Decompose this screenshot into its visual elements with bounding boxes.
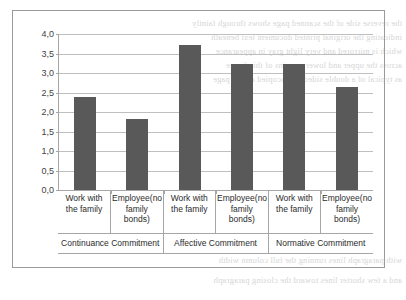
y-axis-tick-label: 2,5 [41, 88, 54, 98]
bar-slot [111, 34, 163, 190]
bleed-text-line: and a few shorter lines toward the closi… [4, 275, 402, 285]
y-axis-tick-label: 2,0 [41, 107, 54, 117]
plot-area: 0,00,51,01,52,02,53,03,54,0 [58, 34, 373, 191]
bar-slot [268, 34, 320, 190]
bar[interactable] [336, 87, 358, 190]
group-label-cell: Affective Commitment [163, 234, 268, 254]
category-label-row: Work with the familyEmployee(no family b… [58, 191, 373, 234]
bar-slot [321, 34, 373, 190]
group-label-cell: Normative Commitment [268, 234, 373, 254]
y-axis-tick-label: 0,5 [41, 166, 54, 176]
category-label-cell: Employee(no family bonds) [321, 191, 374, 234]
category-label-cell: Work with the family [268, 191, 321, 234]
category-label-cell: Work with the family [163, 191, 216, 234]
group-label-row: Continuance CommitmentAffective Commitme… [58, 234, 373, 254]
category-label-cell: Employee(no family bonds) [216, 191, 269, 234]
bar[interactable] [179, 45, 201, 190]
bar[interactable] [231, 64, 253, 190]
group-label-cell: Continuance Commitment [58, 234, 163, 254]
y-axis-tick-label: 3,5 [41, 49, 54, 59]
y-axis-tick-label: 4,0 [41, 29, 54, 39]
bar-slot [164, 34, 216, 190]
bar-slot [216, 34, 268, 190]
y-axis-tick-label: 1,0 [41, 146, 54, 156]
y-axis-tick-label: 3,0 [41, 68, 54, 78]
category-label-cell: Employee(no family bonds) [111, 191, 164, 234]
category-label-cell: Work with the family [58, 191, 111, 234]
bar[interactable] [283, 64, 305, 190]
y-axis-tick-label: 0,0 [41, 185, 54, 195]
bar[interactable] [74, 97, 96, 190]
bar-slot [59, 34, 111, 190]
bar[interactable] [126, 119, 148, 190]
bars-layer [59, 34, 373, 190]
y-axis-tick-label: 1,5 [41, 127, 54, 137]
chart-frame: 0,00,51,01,52,02,53,03,54,0 Work with th… [12, 10, 385, 268]
category-axis-table: Work with the familyEmployee(no family b… [58, 191, 373, 254]
